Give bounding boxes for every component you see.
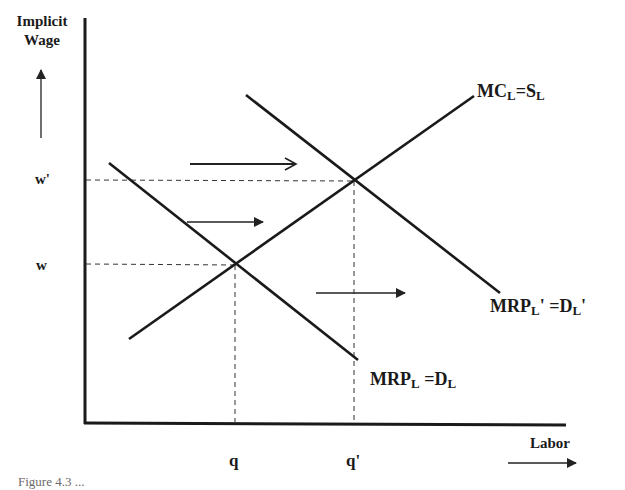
mrp-prime-label-tail: ' <box>581 296 586 316</box>
tick-q-prime: q' <box>346 452 360 469</box>
mc-supply-curve <box>129 96 474 339</box>
mc-label-sub2: L <box>536 88 545 103</box>
tick-q: q <box>229 452 238 469</box>
mc-curve-label: MCL=SL <box>477 82 545 103</box>
y-axis-label-line2: Wage <box>8 33 76 48</box>
mrp-prime-curve-label: MRPL' =DL' <box>490 297 586 318</box>
mrp-label-main: MRP <box>370 369 411 389</box>
mrp-curve-label: MRPL =DL <box>370 370 456 391</box>
mc-label-sub1: L <box>507 88 516 103</box>
guide-lines <box>86 180 354 422</box>
mrp-demand-curve <box>109 163 358 360</box>
w-prime-guide <box>86 180 354 181</box>
y-axis-label: Implicit Wage <box>8 14 76 48</box>
tick-w: w <box>36 258 47 273</box>
mrp-prime-label-sub1: L <box>531 303 540 318</box>
mc-label-mid: =S <box>516 81 536 101</box>
mrp-prime-label-mid: ' =D <box>540 296 573 316</box>
mrp-label-sub1: L <box>411 376 420 391</box>
tick-w-prime: w' <box>35 172 50 187</box>
figure-caption: Figure 4.3 ... <box>18 474 84 490</box>
y-axis-label-line1: Implicit <box>8 14 76 29</box>
w-guide <box>86 264 235 265</box>
mrp-prime-label-sub2: L <box>572 303 581 318</box>
mrp-prime-label-main: MRP <box>490 296 531 316</box>
x-axis <box>84 423 566 425</box>
mc-label-main: MC <box>477 81 507 101</box>
mrp-label-sub2: L <box>447 376 456 391</box>
mrp-label-mid: =D <box>420 369 448 389</box>
mrp-prime-demand-curve <box>246 95 500 293</box>
x-axis-label: Labor <box>530 436 570 451</box>
